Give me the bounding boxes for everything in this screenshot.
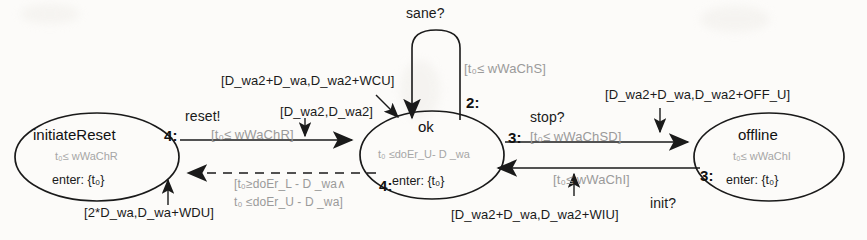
transition-guard-sane: [t₀≤ wWaChS] — [464, 62, 546, 76]
state-entry-initiateReset: enter: {t₀} — [52, 173, 104, 187]
transition-event-reset: reset! — [185, 109, 221, 124]
transition-event-stop: stop? — [530, 110, 565, 125]
state-entry-ok: enter: {t₀} — [392, 174, 444, 188]
transition-guard-init: [t₀≤ wWaChI] — [553, 173, 630, 187]
state-entry-offline: enter: {t₀} — [726, 173, 778, 187]
transition-guard-line1-reset-back: [t₀≥doEr_L - D _wa∧ — [234, 178, 346, 191]
state-label-ok: ok — [418, 118, 434, 135]
state-invariant-initiateReset: t₀≤ wWaChR — [55, 150, 118, 162]
transition-delay-stop: [D_wa2+D_wa,D_wa2+OFF_U] — [605, 88, 790, 102]
transition-order-init: 3: — [700, 168, 714, 184]
state-invariant-offline: t₀≤ wWaChI — [733, 150, 791, 162]
transition-guard-line2-reset-back: t₀ ≤doEr_U - D _wa] — [234, 196, 343, 209]
transition-order-reset-back: 4: — [379, 178, 393, 194]
transition-event-sane: sane? — [406, 6, 445, 21]
state-label-offline: offline — [738, 126, 778, 143]
transition-order-stop: 3: — [508, 130, 522, 146]
transition-order-sane: 2: — [466, 95, 480, 111]
transition-ok-self-sane — [412, 30, 460, 120]
transition-guard-stop: [t₀≤ wWaChSD] — [530, 130, 621, 144]
state-label-initiateReset: initiateReset — [33, 126, 116, 143]
transition-event-init: init? — [650, 196, 676, 211]
transition-delay-init: [D_wa2+D_wa,D_wa2+WIU] — [451, 208, 619, 222]
transition-guard-reset: [t₀≤ wWaChR] — [211, 128, 294, 142]
transition-order-reset: 4: — [164, 128, 178, 144]
transition-delay-upper-reset: [D_wa2+D_wa,D_wa2+WCU] — [221, 74, 394, 88]
transition-delay-reset-back: [2*D_wa,D_wa+WDU] — [84, 206, 214, 220]
transition-delay-lower-reset: [D_wa2,D_wa2] — [280, 105, 373, 119]
diagram-stage: initiateReset t₀≤ wWaChR enter: {t₀} ok … — [0, 0, 867, 240]
state-invariant-ok: t₀ ≤doEr_U- D _wa — [378, 148, 470, 160]
